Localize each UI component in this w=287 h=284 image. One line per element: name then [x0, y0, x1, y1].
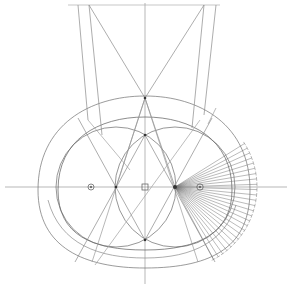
fan-tick	[240, 233, 242, 236]
left-node-point	[115, 186, 118, 189]
apex-line-3	[92, 98, 145, 262]
fan-tick	[256, 172, 257, 176]
left-guide-inner	[89, 5, 102, 135]
fan-tick	[217, 256, 220, 258]
vesica-top-point	[144, 134, 147, 137]
radial-fan	[175, 142, 257, 260]
apex-point	[144, 97, 147, 100]
drawing-svg	[0, 0, 287, 284]
outer-oval	[38, 96, 250, 268]
fan-ray	[175, 158, 252, 187]
vesica-bottom-point	[144, 239, 147, 242]
fan-tick	[246, 224, 248, 228]
fan-tick	[244, 229, 246, 232]
right-center-dot	[199, 186, 201, 188]
right-diagonal-to-apex	[145, 5, 204, 98]
fan-ray	[175, 144, 245, 188]
fan-ray	[175, 187, 254, 211]
fan-ray	[175, 187, 250, 221]
right-node-point	[173, 185, 177, 189]
fan-tick	[246, 146, 248, 150]
fan-ray	[175, 163, 253, 187]
fan-ray	[175, 187, 214, 259]
fan-tick	[256, 198, 257, 202]
fan-tick	[237, 238, 240, 241]
fan-tick	[221, 253, 224, 255]
fan-ray	[175, 187, 255, 206]
fan-ray	[175, 153, 250, 187]
fan-ray	[175, 168, 255, 187]
left-guide-outer	[78, 5, 88, 120]
left-center-dot	[90, 186, 92, 188]
fan-tick	[249, 219, 251, 223]
fan-tick	[244, 142, 246, 145]
right-guide-inner	[192, 5, 204, 128]
right-guide-outer	[204, 5, 216, 115]
construction-drawing	[0, 0, 287, 284]
cross-line-3	[75, 135, 145, 262]
cross-line-1	[78, 118, 145, 240]
left-diagonal-to-apex	[89, 5, 145, 98]
